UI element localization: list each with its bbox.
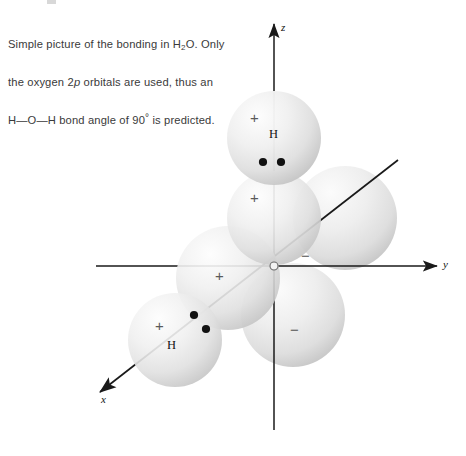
minus-pz-neg-lobe: − (290, 322, 299, 337)
plus-top-h: + (250, 110, 259, 125)
atom-label-h-lower: H (167, 339, 176, 352)
origin-marker (270, 262, 278, 270)
axis-label-z: z (281, 22, 285, 33)
electron-dot (202, 325, 210, 333)
minus-px-lobe: − (301, 248, 310, 263)
figure-root: Simple picture of the bonding in H2O. On… (0, 0, 466, 456)
plus-py-lobe: + (215, 268, 224, 283)
electron-dot (190, 311, 198, 319)
axis-label-x: x (101, 394, 106, 405)
plus-pz-lobe: + (250, 190, 259, 205)
axis-label-y: y (443, 259, 448, 270)
orbital-diagram (0, 0, 466, 456)
electron-dot (259, 158, 267, 166)
plus-lower-h: + (155, 318, 164, 333)
atom-label-h-top: H (269, 128, 278, 141)
electron-dot (277, 158, 285, 166)
